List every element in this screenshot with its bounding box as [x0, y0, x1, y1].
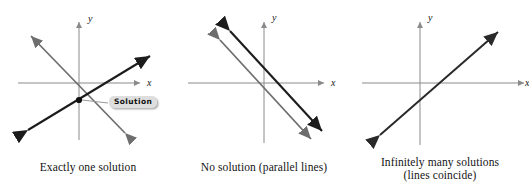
x-axis-label: x — [525, 78, 529, 88]
y-axis-label: y — [272, 13, 276, 23]
panel-no-solution: y x No solution (parallel lines) — [176, 0, 352, 195]
plot-no-solution — [176, 0, 352, 152]
ascending-dark-line — [28, 56, 150, 130]
plot-infinitely-many-solutions — [352, 0, 528, 152]
caption-infinitely-many-solutions: Infinitely many solutions (lines coincid… — [352, 156, 528, 182]
y-axis-label: y — [88, 14, 92, 24]
caption-line: Exactly one solution — [0, 161, 176, 174]
caption-line: Infinitely many solutions — [352, 156, 528, 169]
panel-exactly-one-solution: y x Solution Exactly one solution — [0, 0, 176, 195]
panel-infinitely-many-solutions: y x Infinitely many solutions (lines coi… — [352, 0, 528, 195]
x-axis-label: x — [331, 78, 335, 88]
lower-gray-line — [220, 40, 311, 139]
caption-no-solution: No solution (parallel lines) — [176, 161, 352, 174]
solution-point — [76, 97, 82, 103]
y-axis-label: y — [428, 13, 432, 23]
caption-exactly-one-solution: Exactly one solution — [0, 161, 176, 174]
upper-dark-line — [230, 31, 322, 131]
caption-line: No solution (parallel lines) — [176, 161, 352, 174]
solution-callout-badge: Solution — [109, 96, 157, 108]
caption-line: (lines coincide) — [352, 169, 528, 182]
x-axis-label: x — [147, 78, 151, 88]
